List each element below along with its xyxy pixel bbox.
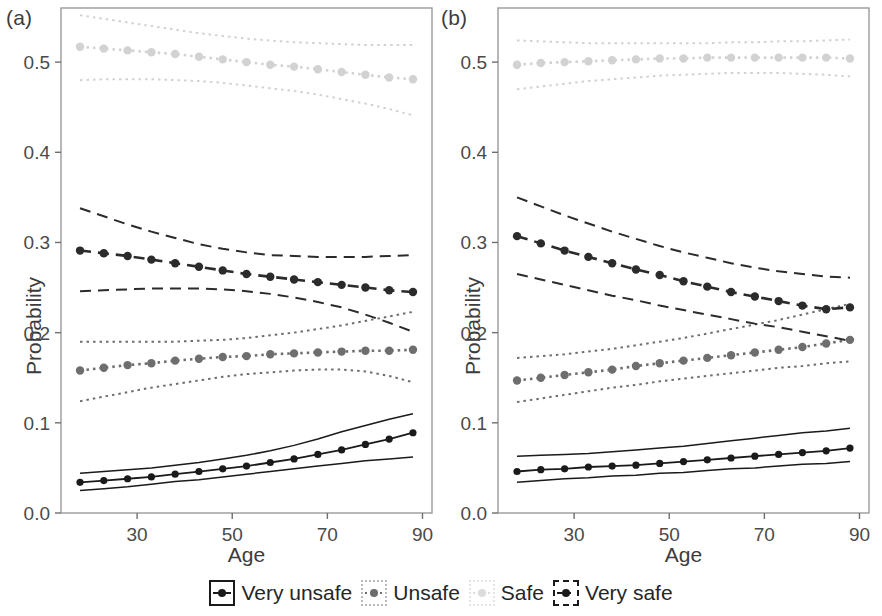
panel-b: (b) Probability 0.00.10.20.30.40.5305070…	[441, 0, 882, 570]
legend-item-very-unsafe: Very unsafe	[209, 580, 352, 606]
svg-text:0.4: 0.4	[461, 142, 488, 163]
svg-text:0.1: 0.1	[461, 413, 487, 434]
svg-text:0.5: 0.5	[461, 52, 487, 73]
legend: Very unsafe Unsafe Safe Very safe	[0, 570, 882, 616]
svg-text:0.1: 0.1	[24, 413, 50, 434]
svg-text:0.0: 0.0	[461, 503, 487, 524]
legend-key-very-safe-icon	[553, 580, 579, 606]
legend-key-marker	[370, 589, 378, 597]
panel-a: (a) Probability 0.00.10.20.30.40.5305070…	[0, 0, 441, 570]
svg-text:30: 30	[564, 524, 585, 545]
legend-label-very-unsafe: Very unsafe	[241, 581, 352, 605]
legend-item-unsafe: Unsafe	[361, 580, 460, 606]
svg-text:90: 90	[849, 524, 870, 545]
legend-label-unsafe: Unsafe	[393, 581, 460, 605]
svg-text:0.0: 0.0	[24, 503, 50, 524]
legend-key-marker	[478, 589, 486, 597]
legend-key-unsafe-icon	[361, 580, 387, 606]
svg-text:50: 50	[222, 524, 243, 545]
panel-a-plot: 0.00.10.20.30.40.530507090	[0, 0, 441, 570]
legend-item-safe: Safe	[469, 580, 544, 606]
svg-text:0.2: 0.2	[24, 323, 50, 344]
svg-text:0.4: 0.4	[24, 142, 51, 163]
svg-text:0.2: 0.2	[461, 323, 487, 344]
legend-label-very-safe: Very safe	[585, 581, 673, 605]
svg-text:0.5: 0.5	[24, 52, 50, 73]
legend-key-marker	[218, 589, 226, 597]
svg-text:0.3: 0.3	[24, 232, 50, 253]
svg-text:30: 30	[127, 524, 148, 545]
legend-key-marker	[562, 589, 570, 597]
svg-text:90: 90	[412, 524, 433, 545]
legend-item-very-safe: Very safe	[553, 580, 673, 606]
legend-label-safe: Safe	[501, 581, 544, 605]
panel-a-x-axis-label: Age	[61, 543, 432, 567]
svg-text:70: 70	[317, 524, 338, 545]
legend-key-very-unsafe-icon	[209, 580, 235, 606]
svg-text:50: 50	[659, 524, 680, 545]
figure-container: (a) Probability 0.00.10.20.30.40.5305070…	[0, 0, 882, 616]
svg-text:0.3: 0.3	[461, 232, 487, 253]
svg-text:70: 70	[754, 524, 775, 545]
legend-key-safe-icon	[469, 580, 495, 606]
panel-b-x-axis-label: Age	[498, 543, 869, 567]
panel-b-plot: 0.00.10.20.30.40.530507090	[441, 0, 882, 570]
